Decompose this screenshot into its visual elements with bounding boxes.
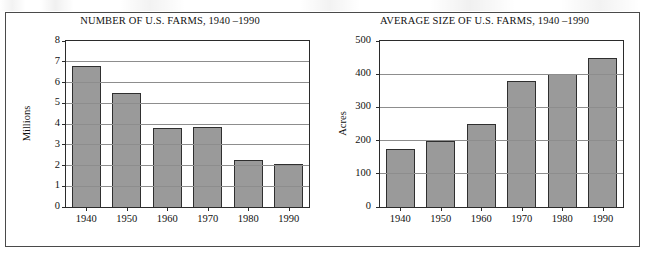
x-axis-tick-mark: [441, 207, 442, 211]
x-axis-tick-mark: [289, 207, 290, 211]
bar: [588, 58, 617, 207]
bar: [193, 127, 222, 207]
x-axis-tick-mark: [400, 207, 401, 211]
y-axis-tick-label: 500: [337, 34, 371, 45]
x-axis-tick-label: 1960: [459, 213, 503, 224]
x-axis-tick-mark: [208, 207, 209, 211]
x-axis-tick-label: 1990: [267, 213, 311, 224]
bars-layer-right: [380, 41, 623, 207]
x-axis-tick-label: 1980: [540, 213, 584, 224]
y-axis-tick-mark: [62, 165, 66, 166]
bars-layer-left: [66, 41, 309, 207]
x-axis-tick-mark: [603, 207, 604, 211]
chart-title-left: NUMBER OF U.S. FARMS, 1940 –1990: [6, 15, 324, 26]
y-axis-tick-label: 4: [26, 117, 60, 128]
y-axis-tick-mark: [376, 173, 380, 174]
chart-panel-average-size: AVERAGE SIZE OF U.S. FARMS, 1940 –1990 A…: [324, 13, 641, 248]
bar: [507, 81, 536, 207]
y-axis-tick-mark: [62, 186, 66, 187]
y-axis-tick-label: 0: [337, 200, 371, 211]
y-axis-tick-label: 200: [337, 134, 371, 145]
x-axis-tick-mark: [562, 207, 563, 211]
y-axis-tick-label: 3: [26, 138, 60, 149]
x-axis-tick-label: 1980: [226, 213, 270, 224]
y-axis-tick-mark: [376, 41, 380, 42]
x-axis-tick-label: 1960: [145, 213, 189, 224]
x-axis-tick-label: 1970: [500, 213, 544, 224]
y-axis-tick-mark: [376, 140, 380, 141]
x-axis-tick-mark: [522, 207, 523, 211]
x-axis-tick-mark: [248, 207, 249, 211]
y-axis-tick-mark: [62, 41, 66, 42]
y-axis-tick-mark: [62, 103, 66, 104]
x-axis-tick-label: 1970: [186, 213, 230, 224]
x-axis-tick-label: 1940: [64, 213, 108, 224]
y-axis-tick-label: 400: [337, 67, 371, 78]
x-axis-tick-label: 1950: [419, 213, 463, 224]
y-axis-tick-label: 100: [337, 167, 371, 178]
y-axis-tick-mark: [62, 144, 66, 145]
bar: [274, 164, 303, 207]
bar: [234, 160, 263, 207]
x-axis-tick-mark: [86, 207, 87, 211]
plot-area-left: 012345678194019501960197019801990: [65, 40, 310, 208]
y-axis-tick-mark: [62, 207, 66, 208]
scan-noise-artifact: [0, 0, 646, 11]
x-axis-tick-label: 1940: [378, 213, 422, 224]
bar: [72, 66, 101, 207]
y-axis-tick-mark: [62, 61, 66, 62]
x-axis-tick-label: 1950: [105, 213, 149, 224]
y-axis-tick-label: 8: [26, 34, 60, 45]
bar: [112, 93, 141, 207]
x-axis-tick-mark: [127, 207, 128, 211]
y-axis-tick-label: 0: [26, 200, 60, 211]
chart-panel-number-of-farms: NUMBER OF U.S. FARMS, 1940 –1990 Million…: [6, 13, 324, 248]
chart-title-right: AVERAGE SIZE OF U.S. FARMS, 1940 –1990: [324, 15, 641, 26]
y-axis-tick-label: 1: [26, 179, 60, 190]
x-axis-tick-label: 1990: [581, 213, 625, 224]
bar: [426, 141, 455, 207]
bar: [467, 124, 496, 207]
y-axis-tick-label: 6: [26, 76, 60, 87]
y-axis-tick-mark: [62, 82, 66, 83]
plot-area-right: 0100200300400500194019501960197019801990: [379, 40, 624, 208]
x-axis-tick-mark: [167, 207, 168, 211]
y-axis-tick-mark: [376, 107, 380, 108]
y-axis-tick-label: 2: [26, 159, 60, 170]
y-axis-tick-mark: [62, 124, 66, 125]
bar: [548, 74, 577, 207]
figure-frame: NUMBER OF U.S. FARMS, 1940 –1990 Million…: [5, 12, 640, 247]
bar: [153, 128, 182, 207]
y-axis-tick-mark: [376, 74, 380, 75]
bar: [386, 149, 415, 207]
y-axis-tick-label: 7: [26, 55, 60, 66]
y-axis-tick-mark: [376, 207, 380, 208]
y-axis-tick-label: 300: [337, 100, 371, 111]
y-axis-tick-label: 5: [26, 96, 60, 107]
x-axis-tick-mark: [481, 207, 482, 211]
